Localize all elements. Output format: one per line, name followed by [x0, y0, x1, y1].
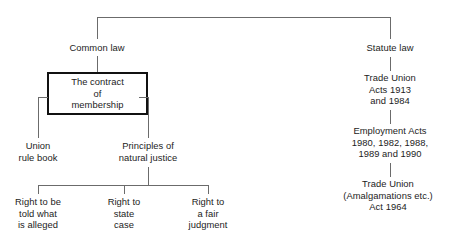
node-common-law: Common law — [47, 42, 147, 54]
connector-root-to-common-law — [97, 17, 98, 39]
connector-root-to-statute-law — [390, 17, 391, 39]
node-right-state-case: Right to state case — [84, 196, 164, 231]
node-right-fair-judgment: Right to a fair judgment — [168, 196, 248, 231]
node-right-told-what-alleged: Right to be told what is alleged — [0, 196, 78, 231]
node-employment-acts: Employment Acts 1980, 1982, 1988, 1989 a… — [328, 125, 452, 160]
connector-employment-acts-to-amalgamations — [390, 163, 391, 177]
node-statute-law: Statute law — [340, 42, 440, 54]
node-trade-union-acts: Trade Union Acts 1913 and 1984 — [340, 72, 440, 107]
node-principles-of-natural-justice: Principles of natural justice — [98, 140, 198, 163]
connector-statute-law-to-trade-union-acts — [390, 57, 391, 71]
connector-principles-down — [148, 167, 149, 185]
node-contract-of-membership-box: The contract of membership — [47, 72, 148, 115]
tree-diagram: Common law The contract of membership Un… — [0, 0, 452, 247]
connector-right-fair-judgment — [208, 185, 209, 194]
node-union-rule-book: Union rule book — [0, 140, 78, 163]
connector-right-state-case — [124, 185, 125, 194]
connector-contract-to-principles-vertical — [148, 97, 149, 138]
connector-contract-to-union-rule-book-horizontal — [38, 97, 48, 98]
connector-trade-union-acts-to-employment-acts — [390, 110, 391, 124]
node-contract-of-membership-label: The contract of membership — [49, 76, 146, 111]
connector-right-told-what-alleged — [38, 185, 39, 194]
connector-root-horizontal — [97, 17, 391, 18]
node-trade-union-amalgamations: Trade Union (Amalgamations etc.) Act 196… — [324, 178, 452, 213]
connector-common-law-to-contract — [97, 56, 98, 72]
connector-contract-to-union-rule-book-vertical — [38, 97, 39, 138]
